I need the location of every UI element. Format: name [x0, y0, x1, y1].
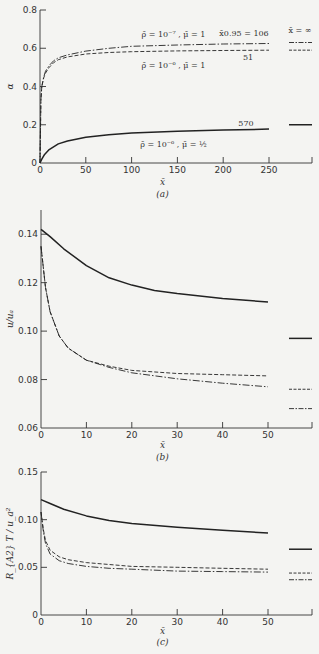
end-label-51: 51	[243, 53, 253, 62]
y-tick-label: 0	[31, 158, 37, 168]
y-tick-label: 0.08	[18, 375, 38, 385]
x-tick-label: 0	[38, 430, 44, 440]
x-tick-label: 50	[262, 617, 274, 627]
y-tick-label: 0.4	[23, 82, 38, 92]
curve-annotation: ρ̄ = 10⁻⁶ , μ̄ = 1	[141, 61, 205, 70]
x-tick-label: 0	[38, 617, 44, 627]
y-axis-title: R_{A2} T / u_a²	[5, 507, 16, 580]
panel-caption: (a)	[156, 189, 169, 199]
figure: 05010015020025000.20.40.60.8x̄α(a)ρ̄ = 1…	[0, 0, 319, 654]
x-axis-title: x̄	[160, 440, 165, 450]
chart-panel-a: 05010015020025000.20.40.60.8x̄α(a)ρ̄ = 1…	[5, 5, 312, 199]
y-tick-label: 0.6	[23, 43, 38, 53]
y-axis-title: α	[5, 83, 15, 89]
y-axis-title: u/uₐ	[5, 310, 15, 328]
y-tick-label: 0.05	[18, 562, 38, 572]
series-line-dashed	[41, 512, 268, 569]
y-tick-label: 0	[32, 610, 38, 620]
y-tick-label: 0.8	[23, 5, 38, 15]
x-tick-label: 30	[171, 430, 183, 440]
series-line-dashdot	[41, 246, 268, 386]
end-label-570: 570	[238, 119, 253, 128]
panel-caption: (b)	[156, 452, 169, 462]
x-axis-title: x̄	[160, 626, 165, 636]
x-tick-label: 10	[81, 430, 93, 440]
chart-panel-b: 010203040500.060.080.100.120.14x̄u/uₐ(b)	[5, 210, 312, 462]
y-tick-label: 0.10	[18, 326, 38, 336]
x-tick-label: 150	[169, 165, 186, 175]
x-tick-label: 20	[126, 617, 138, 627]
x-tick-label: 50	[262, 430, 274, 440]
y-tick-label: 0.2	[23, 120, 37, 130]
end-label-x095: x̄0.95 = 106	[219, 29, 268, 38]
series-line-solid	[41, 500, 268, 533]
x-tick-label: 30	[171, 617, 183, 627]
y-tick-label: 0.12	[18, 278, 38, 288]
x-tick-label: 50	[80, 165, 92, 175]
x-tick-label: 250	[260, 165, 277, 175]
series-line-dashed	[41, 246, 268, 376]
x-tick-label: 100	[123, 165, 140, 175]
y-tick-label: 0.15	[18, 467, 38, 477]
x-tick-label: 20	[126, 430, 138, 440]
curve-annotation: ρ̄ = 10⁻⁶ , μ̄ = ½	[140, 140, 207, 149]
series-line-dashdot	[41, 512, 268, 572]
asymptote-label: x̄ = ∞	[289, 26, 312, 35]
chart-panel-c: 0102030405000.050.100.15x̄R_{A2} T / u_a…	[5, 467, 312, 647]
x-tick-label: 0	[37, 165, 43, 175]
x-tick-label: 200	[215, 165, 232, 175]
x-tick-label: 10	[81, 617, 93, 627]
x-axis-title: x̄	[160, 177, 165, 187]
x-tick-label: 40	[217, 617, 229, 627]
y-tick-label: 0.06	[18, 423, 38, 433]
panel-caption: (c)	[156, 637, 169, 647]
series-line-solid	[41, 229, 268, 302]
curve-annotation: ρ̄ = 10⁻⁷ , μ̄ = 1	[141, 30, 205, 39]
x-tick-label: 40	[217, 430, 229, 440]
y-tick-label: 0.10	[18, 515, 38, 525]
y-tick-label: 0.14	[18, 229, 38, 239]
